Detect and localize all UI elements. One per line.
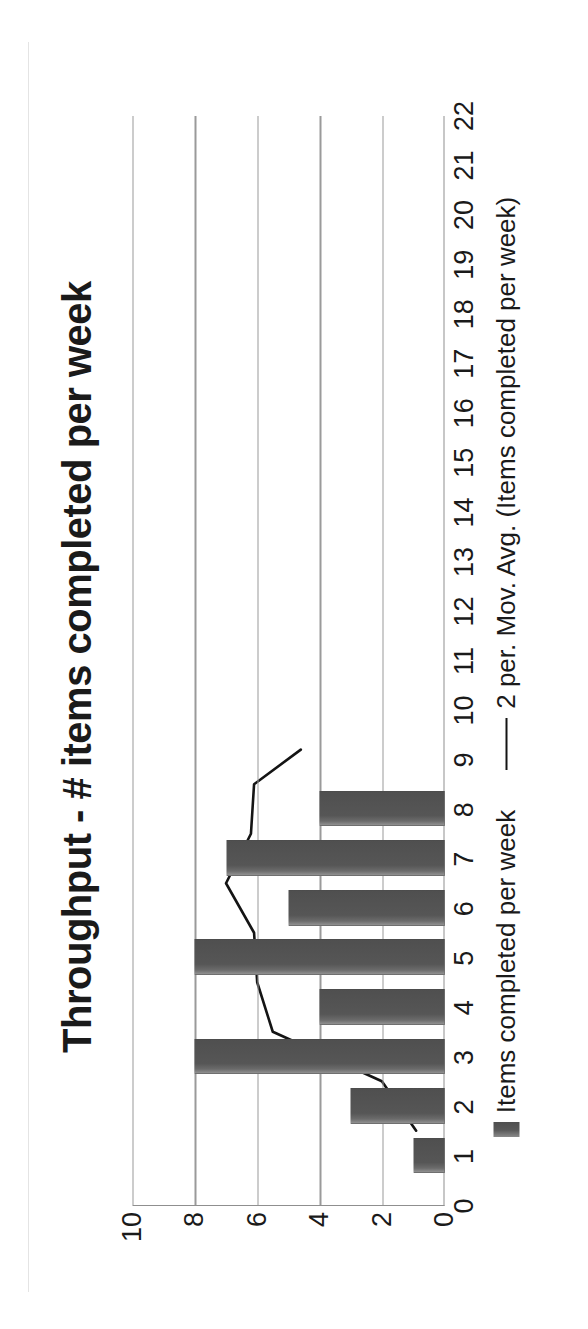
x-tick-label: 15 bbox=[448, 448, 479, 478]
y-tick-label: 2 bbox=[366, 1212, 397, 1227]
bar-items-completed bbox=[350, 1088, 444, 1124]
bar-items-completed bbox=[319, 989, 444, 1025]
y-tick-label: 0 bbox=[429, 1212, 460, 1227]
bar-items-completed bbox=[288, 890, 444, 926]
chart-title: Throughput - # items completed per week bbox=[54, 42, 99, 1292]
y-tick-label: 8 bbox=[179, 1212, 210, 1227]
x-tick-label: 19 bbox=[448, 250, 479, 280]
x-tick-label: 14 bbox=[448, 497, 479, 527]
x-tick-label: 12 bbox=[448, 596, 479, 626]
y-axis-tick-labels: 0246810 bbox=[132, 1212, 444, 1272]
x-tick-label: 10 bbox=[448, 696, 479, 726]
x-tick-label: 7 bbox=[448, 852, 479, 867]
legend-label: 2 per. Mov. Avg. (Items completed per we… bbox=[490, 197, 521, 709]
rotated-chart-stage: Throughput - # items completed per week … bbox=[28, 42, 555, 1292]
legend-label: Items completed per week bbox=[490, 810, 521, 1113]
x-tick-label: 21 bbox=[448, 151, 479, 181]
chart-legend: Items completed per week2 per. Mov. Avg.… bbox=[490, 42, 521, 1292]
bar-items-completed bbox=[194, 1039, 444, 1075]
y-tick-label: 4 bbox=[304, 1212, 335, 1227]
x-tick-label: 9 bbox=[448, 753, 479, 768]
gridline bbox=[132, 116, 133, 1205]
x-tick-label: 11 bbox=[448, 647, 479, 675]
x-tick-label: 6 bbox=[448, 901, 479, 916]
plot-area bbox=[132, 116, 444, 1206]
y-tick-label: 10 bbox=[117, 1212, 148, 1242]
x-tick-label: 5 bbox=[448, 951, 479, 966]
x-tick-label: 8 bbox=[448, 802, 479, 817]
legend-item[interactable]: 2 per. Mov. Avg. (Items completed per we… bbox=[490, 197, 521, 770]
legend-item[interactable]: Items completed per week bbox=[490, 810, 521, 1137]
x-tick-label: 16 bbox=[448, 398, 479, 428]
x-tick-label: 17 bbox=[448, 349, 479, 379]
plot-wrapper bbox=[132, 116, 444, 1206]
y-tick-label: 6 bbox=[241, 1212, 272, 1227]
x-tick-label: 3 bbox=[448, 1050, 479, 1065]
x-tick-label: 20 bbox=[448, 200, 479, 230]
x-tick-label: 4 bbox=[448, 1000, 479, 1015]
bar-items-completed bbox=[226, 840, 444, 876]
x-tick-label: 22 bbox=[448, 101, 479, 131]
chart-root: Throughput - # items completed per week … bbox=[28, 42, 555, 1292]
x-axis-tick-labels: 012345678910111213141516171819202122 bbox=[448, 116, 482, 1206]
bar-items-completed bbox=[413, 1138, 444, 1174]
x-tick-label: 13 bbox=[448, 547, 479, 577]
bar-items-completed bbox=[194, 939, 444, 975]
x-tick-label: 2 bbox=[448, 1099, 479, 1114]
x-tick-label: 18 bbox=[448, 299, 479, 329]
bar-items-completed bbox=[319, 791, 444, 827]
line-swatch-icon bbox=[505, 718, 507, 770]
chart-page-frame: Throughput - # items completed per week … bbox=[28, 42, 555, 1292]
bar-swatch-icon bbox=[493, 1122, 519, 1137]
x-tick-label: 1 bbox=[448, 1149, 479, 1164]
